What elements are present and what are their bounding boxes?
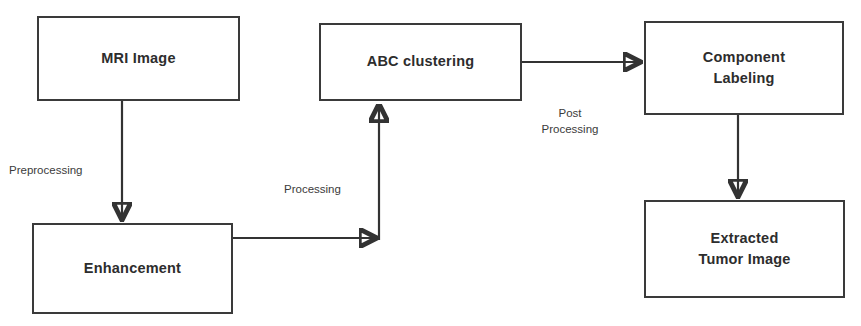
flowchart-canvas: MRI Image Enhancement ABC clustering Com… (0, 0, 861, 326)
node-mri-image-label: MRI Image (101, 48, 175, 69)
edge-label-preprocessing: Preprocessing (9, 163, 83, 179)
node-abc-clustering-label: ABC clustering (367, 51, 475, 72)
edge-label-processing: Processing (284, 182, 341, 198)
node-extracted-tumor-image-label: Extracted Tumor Image (698, 228, 790, 270)
node-abc-clustering[interactable]: ABC clustering (319, 23, 522, 101)
node-extracted-tumor-image[interactable]: Extracted Tumor Image (644, 200, 845, 298)
edge-label-post-processing: Post Processing (534, 106, 606, 137)
node-component-labeling[interactable]: Component Labeling (644, 21, 844, 115)
node-enhancement-label: Enhancement (84, 258, 181, 279)
node-enhancement[interactable]: Enhancement (32, 223, 233, 314)
node-mri-image[interactable]: MRI Image (37, 16, 240, 101)
node-component-labeling-label: Component Labeling (703, 47, 785, 89)
